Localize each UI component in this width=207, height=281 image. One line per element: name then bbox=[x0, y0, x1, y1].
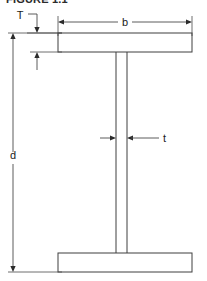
dimension-label-b: b bbox=[122, 16, 128, 28]
i-beam-cross-section-diagram: T b bbox=[0, 0, 207, 281]
dimension-label-t: t bbox=[163, 132, 166, 144]
top-flange-shape bbox=[58, 33, 192, 52]
T-arrowhead-lower bbox=[34, 52, 39, 58]
bottom-flange-shape bbox=[58, 253, 192, 272]
dimension-label-d: d bbox=[10, 149, 16, 161]
d-arrowhead-top bbox=[10, 33, 15, 39]
T-arrowhead-upper bbox=[34, 27, 39, 33]
dimension-flange-thickness-T: T bbox=[17, 9, 62, 70]
beam-outline-group bbox=[58, 33, 192, 272]
b-arrowhead-right bbox=[186, 19, 192, 24]
T-leader-line bbox=[28, 14, 37, 28]
dimension-web-thickness-t: t bbox=[100, 132, 166, 144]
d-arrowhead-bottom bbox=[10, 266, 15, 272]
figure-container: FIGURE 1.1 T bbox=[0, 0, 207, 281]
b-arrowhead-left bbox=[58, 19, 64, 24]
t-arrowhead-left bbox=[110, 135, 116, 140]
dimension-overall-depth-d: d bbox=[8, 33, 62, 272]
dimension-label-T: T bbox=[17, 9, 24, 21]
